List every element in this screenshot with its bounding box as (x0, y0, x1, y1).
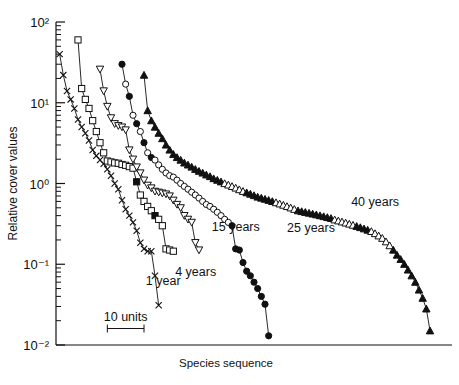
data-point-marker (192, 240, 199, 247)
data-point-marker (195, 247, 202, 254)
y-axis-title: Relative cover values (6, 126, 20, 240)
data-point-marker (266, 333, 272, 339)
data-point-marker (112, 180, 118, 186)
data-point-marker (130, 112, 136, 118)
data-point-marker (129, 156, 136, 163)
data-point-marker (159, 223, 165, 229)
data-point-marker (188, 219, 195, 226)
data-point-marker (82, 96, 88, 102)
data-point-marker (144, 107, 151, 114)
data-point-marker (126, 93, 132, 99)
data-point-marker (79, 124, 85, 130)
rank-abundance-plot: 10²10¹10⁰10⁻¹10⁻²Relative cover valuesSp… (0, 0, 459, 385)
data-point-marker (123, 81, 129, 87)
data-point-marker (100, 88, 107, 95)
y-tick-label: 10⁰ (30, 177, 49, 192)
data-point-marker (126, 147, 133, 154)
data-point-marker (134, 121, 140, 127)
data-point-marker (141, 140, 147, 146)
data-point-marker (96, 66, 103, 73)
data-point-marker (134, 179, 140, 185)
data-point-marker (137, 192, 143, 198)
data-point-marker (170, 248, 176, 254)
data-point-marker (162, 141, 169, 148)
data-point-marker (229, 223, 235, 229)
data-point-marker (119, 197, 125, 203)
data-point-marker (79, 85, 85, 91)
data-point-marker (93, 128, 99, 134)
data-point-marker (151, 123, 158, 130)
scale-bar-label: 10 units (104, 310, 148, 324)
data-point-marker (134, 228, 140, 234)
data-point-marker (104, 166, 110, 172)
data-point-marker (86, 105, 92, 111)
scale-bar: 10 units (104, 310, 148, 333)
data-point-marker (75, 116, 81, 122)
series-1-year: 1 year (57, 51, 181, 308)
data-point-marker (123, 206, 129, 212)
data-point-marker (104, 103, 111, 110)
y-tick-label: 10⁻² (23, 338, 49, 353)
data-point-marker (412, 278, 419, 285)
y-tick-label: 10⁻¹ (23, 257, 49, 272)
data-point-marker (156, 216, 162, 222)
data-point-marker (236, 247, 242, 253)
data-point-marker (82, 130, 88, 136)
data-point-marker (251, 279, 257, 285)
data-point-marker (101, 150, 107, 156)
y-tick-label: 10² (30, 15, 49, 30)
data-point-marker (177, 205, 184, 212)
data-point-marker (137, 240, 143, 246)
data-point-marker (255, 285, 261, 291)
data-point-marker (97, 140, 103, 146)
data-point-marker (148, 117, 155, 124)
chart-figure: 10²10¹10⁰10⁻¹10⁻²Relative cover valuesSp… (0, 0, 459, 385)
data-point-marker (126, 213, 132, 219)
data-point-marker (419, 294, 426, 301)
data-point-marker (75, 37, 81, 43)
data-point-marker (141, 246, 147, 252)
data-point-marker (262, 301, 268, 307)
data-point-marker (108, 173, 114, 179)
data-point-marker (130, 219, 136, 225)
series-25-years: 25 years (119, 61, 335, 339)
data-point-marker (140, 71, 147, 78)
x-axis-title: Species sequence (179, 357, 273, 369)
data-point-marker (71, 105, 77, 111)
data-point-marker (240, 259, 246, 265)
data-point-marker (119, 61, 125, 67)
data-point-marker (64, 88, 70, 94)
series-label-40-years: 40 years (351, 195, 399, 209)
data-point-marker (137, 128, 143, 134)
data-point-marker (115, 186, 121, 192)
series-40-years: 40 years (140, 71, 433, 333)
data-point-marker (86, 137, 92, 143)
data-point-marker (90, 118, 96, 124)
series-label-25-years: 25 years (287, 221, 335, 235)
data-point-marker (258, 293, 264, 299)
data-point-marker (415, 286, 422, 293)
data-point-marker (68, 96, 74, 102)
data-point-marker (247, 273, 253, 279)
series-label-15-years: 15 years (212, 220, 260, 234)
data-point-marker (426, 327, 433, 334)
series-label-4-years: 4 years (175, 265, 216, 279)
y-tick-label: 10¹ (30, 96, 49, 111)
data-point-marker (423, 305, 430, 312)
data-point-marker (122, 127, 129, 134)
data-point-marker (137, 170, 144, 177)
data-point-marker (90, 147, 96, 153)
